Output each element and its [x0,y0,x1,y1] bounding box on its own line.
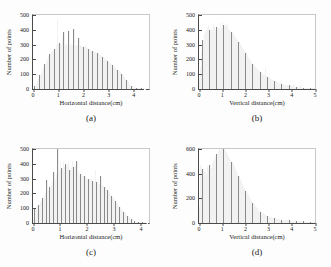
y-tick-label: 400 [20,161,33,167]
x-tick-label: 2 [82,89,85,98]
y-tick-label: 400 [186,27,199,33]
y-tick-label: 100 [20,71,33,77]
y-tick-label: 200 [186,56,199,62]
y-axis-label-b: Number of points [170,14,180,90]
histogram-bars-c [33,149,149,223]
x-tick-label: 0 [32,89,35,98]
y-tick-label: 300 [186,42,199,48]
y-axis-label-d: Number of points [170,148,180,224]
y-tick-label: 500 [186,12,199,18]
x-tick-label: 0 [32,223,35,232]
y-axis-label-a: Number of points [4,14,14,90]
x-tick-label: 4 [290,223,293,232]
x-tick-label: 1 [57,89,60,98]
y-tick-label: 500 [20,146,33,152]
chart-panel-c: Number of points 0100200300400500 01234 … [0,134,165,267]
y-tick-label: 400 [20,27,33,33]
y-tick-label: 600 [186,146,199,152]
y-tick-label: 300 [20,176,33,182]
panel-caption-a: (a) [32,114,150,123]
x-tick-label: 1 [58,223,61,232]
x-tick-label: 0 [198,223,201,232]
x-tick-label: 0 [198,89,201,98]
chart-panel-b: Number of points 0100200300400500 012345… [166,0,331,133]
chart-panel-d: Number of points 0200400600 012345 Verti… [166,134,331,267]
y-tick-label: 200 [20,56,33,62]
x-axis-label-a: Horizontal distance(cm) [32,100,150,107]
x-tick-label: 2 [85,223,88,232]
x-tick-label: 3 [107,89,110,98]
plot-area-b: 0100200300400500 012345 [198,14,316,90]
plot-area-d: 0200400600 012345 [198,148,316,224]
panel-caption-c: (c) [32,248,150,257]
panel-caption-d: (d) [198,248,316,257]
plot-area-a: 0100200300400500 01234 [32,14,150,90]
x-tick-label: 5 [314,89,317,98]
chart-panel-a: Number of points 0100200300400500 01234 … [0,0,165,133]
y-tick-label: 100 [186,71,199,77]
figure-panel-grid: Number of points 0100200300400500 01234 … [0,0,331,267]
y-tick-label: 500 [20,12,33,18]
x-tick-label: 3 [267,223,270,232]
x-tick-label: 4 [132,89,135,98]
y-axis-label-c: Number of points [4,148,14,224]
y-tick-label: 100 [20,205,33,211]
x-tick-label: 2 [244,223,247,232]
x-tick-label: 5 [314,223,317,232]
x-tick-label: 3 [112,223,115,232]
y-tick-label: 400 [186,171,199,177]
x-tick-label: 1 [221,89,224,98]
x-axis-label-d: Vertical distance(cm) [198,234,316,241]
x-tick-label: 4 [290,89,293,98]
x-tick-label: 4 [139,223,142,232]
plot-area-c: 0100200300400500 01234 [32,148,150,224]
panel-caption-b: (b) [198,114,316,123]
histogram-bars-a [33,15,149,89]
y-tick-label: 200 [20,190,33,196]
histogram-bars-d [199,149,315,223]
y-tick-label: 200 [186,195,199,201]
x-axis-label-c: Horizontal distance(cm) [32,234,150,241]
x-axis-label-b: Vertical distance(cm) [198,100,316,107]
x-tick-label: 1 [221,223,224,232]
x-tick-label: 2 [244,89,247,98]
y-tick-label: 300 [20,42,33,48]
x-tick-label: 3 [267,89,270,98]
histogram-bars-b [199,15,315,89]
